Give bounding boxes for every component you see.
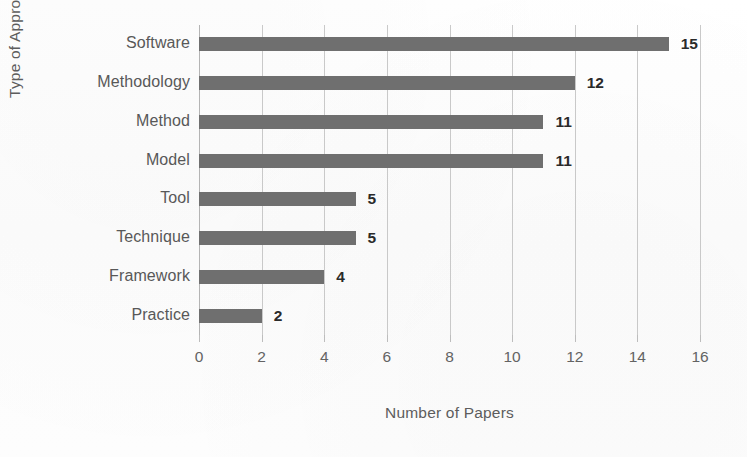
x-axis-tick-label: 0 [179, 348, 219, 366]
x-axis-tick-label: 4 [304, 348, 344, 366]
y-axis-category-label: Tool [30, 189, 190, 207]
y-axis-category-label: Technique [30, 228, 190, 246]
y-axis-category-label: Methodology [30, 73, 190, 91]
x-axis-tick-label: 6 [367, 348, 407, 366]
x-axis-tick [700, 335, 701, 342]
y-axis-category-label: Practice [30, 306, 190, 324]
x-axis-tick-labels: 0246810121416 [199, 0, 700, 457]
x-axis-tick-label: 10 [492, 348, 532, 366]
y-axis-category-label: Model [30, 151, 190, 169]
gridline [700, 25, 701, 335]
x-axis-tick-label: 14 [617, 348, 657, 366]
y-axis-category-label: Method [30, 112, 190, 130]
y-axis-category-label: Software [30, 34, 190, 52]
x-axis-tick-label: 8 [430, 348, 470, 366]
chart-page: Type of Approach SoftwareMethodologyMeth… [0, 0, 747, 457]
x-axis-tick-label: 2 [242, 348, 282, 366]
y-axis-tick-labels: SoftwareMethodologyMethodModelToolTechni… [28, 0, 190, 457]
x-axis-title: Number of Papers [199, 404, 700, 422]
x-axis-tick-label: 16 [680, 348, 720, 366]
y-axis-category-label: Framework [30, 267, 190, 285]
x-axis-tick-label: 12 [555, 348, 595, 366]
